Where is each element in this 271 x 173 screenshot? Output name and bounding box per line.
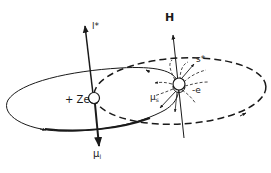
label-nucleus-charge: + Ze: [65, 95, 90, 105]
mu-s-subscript: s: [156, 96, 159, 103]
label-l-star: l*: [92, 22, 99, 31]
nucleus: [89, 93, 100, 104]
label-mu-l: μl: [93, 149, 101, 160]
label-s-star: s*: [196, 55, 205, 64]
dashed-orbit: [92, 54, 267, 129]
mu-l-axis: [95, 104, 99, 146]
label-H: H: [165, 12, 174, 23]
label-electron-charge: -e: [192, 86, 201, 95]
label-mu-s: μs: [150, 93, 159, 103]
l-axis: [85, 26, 93, 94]
spin-orbit-diagram: [0, 0, 271, 173]
mu-l-subscript: l: [99, 153, 101, 160]
